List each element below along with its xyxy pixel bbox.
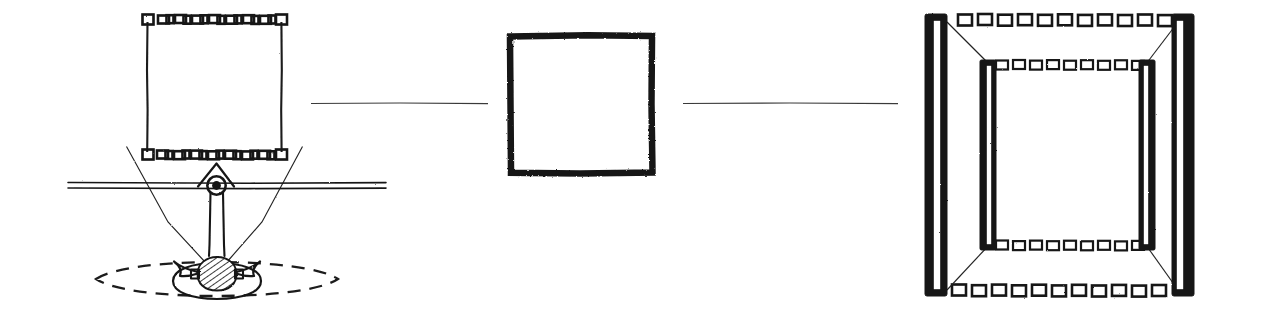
figure-root bbox=[0, 0, 1265, 323]
far-plane-right-bar bbox=[1139, 60, 1155, 250]
frame-right-solid-edge bbox=[281, 22, 282, 152]
connector-center-to-right bbox=[683, 103, 898, 104]
near-plane-left-bar bbox=[925, 14, 947, 296]
far-plane-left-bar bbox=[980, 60, 996, 250]
frame-left-solid-edge bbox=[147, 22, 148, 152]
near-plane-right-bar bbox=[1172, 14, 1194, 296]
target-object bbox=[197, 257, 236, 291]
connector-left-to-center bbox=[311, 103, 488, 104]
camera-lens-node bbox=[212, 181, 221, 190]
figure-canvas bbox=[0, 0, 1265, 323]
